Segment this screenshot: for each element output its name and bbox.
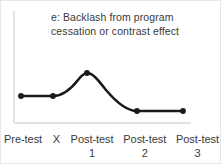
x-tick-post-test-3: Post-test 3 xyxy=(176,132,219,160)
data-point-3 xyxy=(84,70,90,76)
x-tick-pre-test: Pre-test xyxy=(4,132,42,146)
data-point-markers xyxy=(18,70,186,114)
data-point-5 xyxy=(180,108,186,114)
data-point-4 xyxy=(134,108,140,114)
plot-area xyxy=(1,1,221,133)
x-tick-label-main: X xyxy=(53,132,60,146)
x-tick-label-main: Post-test xyxy=(123,132,166,146)
x-tick-label-main: Post-test xyxy=(176,132,219,146)
data-point-1 xyxy=(18,93,24,99)
x-tick-post-test-1: Post-test 1 xyxy=(71,132,114,160)
x-tick-label-sub: 2 xyxy=(142,146,148,160)
x-tick-x: X xyxy=(52,132,61,146)
data-point-2 xyxy=(50,93,56,99)
line-chart-svg xyxy=(1,1,221,133)
chart-figure: e: Backlash from program cessation or co… xyxy=(0,0,221,164)
x-tick-label-sub: 3 xyxy=(194,146,200,160)
x-tick-label-main: Post-test xyxy=(71,132,114,146)
x-tick-post-test-2: Post-test 2 xyxy=(123,132,166,160)
x-tick-label-main: Pre-test xyxy=(4,132,42,146)
data-line-series xyxy=(21,73,183,111)
x-tick-label-sub: 1 xyxy=(89,146,95,160)
x-axis-tick-labels: Pre-test X Post-test 1 Post-test 2 Post-… xyxy=(1,132,221,164)
